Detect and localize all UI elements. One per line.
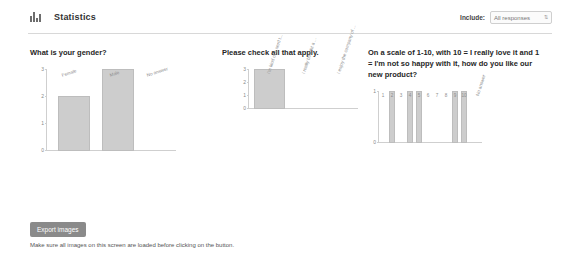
bar-5 — [416, 91, 422, 143]
header-divider — [28, 33, 552, 34]
x-tick-label: 5 — [415, 94, 423, 99]
y-axis — [248, 69, 249, 109]
y-tick: 1 — [30, 121, 44, 126]
x-tick-label: 9 — [451, 94, 459, 99]
bar-10 — [461, 91, 467, 143]
x-tick-label: No answer — [146, 66, 168, 78]
y-tick: 0 — [362, 140, 376, 145]
bar-option-1 — [254, 69, 285, 109]
bar-female — [58, 96, 90, 151]
y-tick: 0 — [30, 148, 44, 153]
y-tick: 2 — [232, 80, 246, 85]
app-header: Statistics Include: All responses ⇅ — [0, 0, 571, 33]
y-tick: 3 — [232, 67, 246, 72]
include-filter: Include: All responses ⇅ — [460, 11, 552, 24]
y-tick: 1 — [232, 93, 246, 98]
chart-plot: 3 2 1 0 Female Male No answer — [46, 69, 176, 151]
x-tick-label: 10 — [460, 94, 468, 99]
footer: Export images Make sure all images on th… — [30, 218, 234, 248]
x-tick-label: 7 — [433, 94, 441, 99]
y-tick: 3 — [30, 67, 44, 72]
chart-panel-scale: On a scale of 1-10, with 10 = I really l… — [368, 48, 552, 143]
x-tick-label: 4 — [406, 94, 414, 99]
x-tick-label: 1 — [379, 94, 387, 99]
y-tick: 0 — [232, 106, 246, 111]
y-tick: 1 — [362, 89, 376, 94]
y-axis — [46, 69, 47, 151]
x-tick-label: 6 — [424, 94, 432, 99]
x-tick-label: 8 — [442, 94, 450, 99]
x-tick-label: Female — [61, 68, 77, 77]
chevron-updown-icon: ⇅ — [544, 15, 548, 20]
bar-male — [102, 69, 134, 151]
bar-9 — [452, 91, 458, 143]
chart-plot: 1 0 1 2 3 4 5 6 7 8 9 10 No answer — [378, 91, 482, 143]
charts-row: What is your gender? 3 2 1 0 Female Male… — [0, 48, 571, 198]
include-selected-value: All responses — [494, 15, 530, 21]
chart-panel-gender: What is your gender? 3 2 1 0 Female Male… — [30, 48, 190, 151]
export-help-text: Make sure all images on this screen are … — [30, 242, 234, 248]
bar-chart-icon — [30, 12, 41, 22]
page-title: Statistics — [54, 12, 96, 22]
chart-panel-checkall: Please check all that apply. 3 2 1 0 I'm… — [222, 48, 370, 109]
bar-2 — [389, 91, 395, 143]
chart-title: What is your gender? — [30, 48, 190, 59]
export-images-button[interactable]: Export images — [30, 222, 86, 237]
x-tick-label: 2 — [388, 94, 396, 99]
y-tick: 2 — [30, 94, 44, 99]
brand: Statistics — [30, 12, 96, 22]
chart-title: On a scale of 1-10, with 10 = I really l… — [368, 48, 544, 81]
include-label: Include: — [460, 14, 485, 21]
x-tick-label: 3 — [397, 94, 405, 99]
chart-plot: 3 2 1 0 I'm kind of a nerd t... I really… — [248, 69, 358, 109]
include-select[interactable]: All responses ⇅ — [490, 11, 552, 24]
y-axis — [378, 91, 379, 143]
bar-4 — [407, 91, 413, 143]
